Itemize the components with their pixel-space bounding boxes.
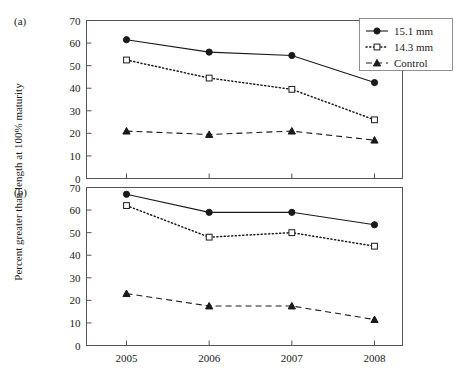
chart-legend: 15.1 mm14.3 mmControl <box>360 19 453 71</box>
data-point-marker <box>206 234 212 240</box>
series-line <box>127 131 375 140</box>
x-tick-label: 2007 <box>281 352 304 364</box>
panel-b-y-tick-labels: 010203040506070 <box>70 182 82 352</box>
legend-marker <box>374 28 380 34</box>
y-tick-label: 20 <box>70 127 82 139</box>
data-point-marker <box>206 49 212 55</box>
y-tick-label: 40 <box>70 82 82 94</box>
data-point-marker <box>372 243 378 249</box>
x-axis-tick-labels: 2005200620072008 <box>116 352 387 364</box>
data-point-marker <box>123 191 129 197</box>
y-tick-label: 50 <box>70 60 82 72</box>
panel-a-frame <box>87 21 403 179</box>
data-point-marker <box>289 52 295 58</box>
data-point-marker <box>372 117 378 123</box>
chart-svg: 010203040506070 010203040506070 20052006… <box>0 0 460 382</box>
legend-label: 14.3 mm <box>394 41 434 53</box>
data-point-marker <box>124 57 130 63</box>
legend-label: 15.1 mm <box>394 25 434 37</box>
data-point-marker <box>371 79 377 85</box>
data-point-marker <box>371 316 378 323</box>
y-tick-label: 10 <box>70 317 82 329</box>
y-axis-label-wrapper: Percent greater than length at 100% matu… <box>0 0 20 382</box>
y-tick-label: 30 <box>70 272 82 284</box>
data-point-marker <box>289 86 295 92</box>
panel-b-frame <box>87 188 403 346</box>
data-point-marker <box>289 230 295 236</box>
data-point-marker <box>123 37 129 43</box>
series-line <box>127 40 375 83</box>
y-tick-label: 30 <box>70 105 82 117</box>
data-point-marker <box>206 75 212 81</box>
data-point-marker <box>289 209 295 215</box>
x-tick-label: 2008 <box>364 352 387 364</box>
y-tick-label: 20 <box>70 294 82 306</box>
legend-label: Control <box>394 57 428 69</box>
data-point-marker <box>371 137 378 144</box>
panel-b-series-group <box>123 191 378 322</box>
y-tick-label: 40 <box>70 249 82 261</box>
panel-a-y-tick-labels: 010203040506070 <box>70 15 82 185</box>
x-tick-label: 2006 <box>198 352 221 364</box>
x-tick-label: 2005 <box>116 352 139 364</box>
y-axis-label: Percent greater than length at 100% matu… <box>12 22 24 342</box>
series-line <box>127 60 375 120</box>
series-line <box>127 206 375 247</box>
data-point-marker <box>124 203 130 209</box>
data-point-marker <box>371 222 377 228</box>
data-point-marker <box>123 290 130 297</box>
y-tick-label: 60 <box>70 204 82 216</box>
panel-a-ticks <box>87 21 375 179</box>
y-tick-label: 0 <box>75 340 81 352</box>
y-tick-label: 70 <box>70 15 82 27</box>
y-tick-label: 10 <box>70 150 82 162</box>
figure-container: (a) (b) Percent greater than length at 1… <box>0 0 460 382</box>
y-tick-label: 70 <box>70 182 82 194</box>
panel-b-ticks <box>87 188 375 346</box>
legend-marker <box>374 44 380 50</box>
panel-a-series-group <box>123 37 378 143</box>
y-tick-label: 60 <box>70 37 82 49</box>
series-line <box>127 294 375 320</box>
data-point-marker <box>206 209 212 215</box>
y-tick-label: 50 <box>70 227 82 239</box>
series-line <box>127 194 375 224</box>
